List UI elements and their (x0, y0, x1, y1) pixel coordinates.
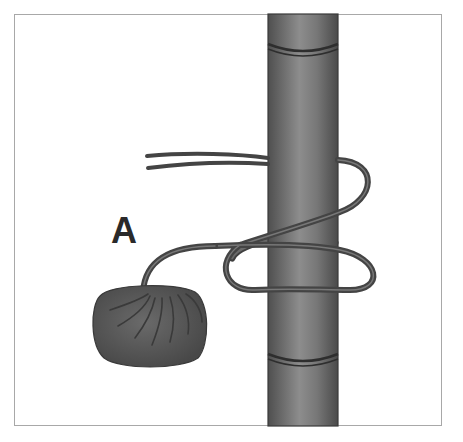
label-a: A (111, 213, 137, 249)
cord (143, 154, 373, 292)
knot-diagram (0, 0, 463, 442)
weight-bundle (93, 286, 207, 367)
bamboo-pole (268, 14, 338, 426)
